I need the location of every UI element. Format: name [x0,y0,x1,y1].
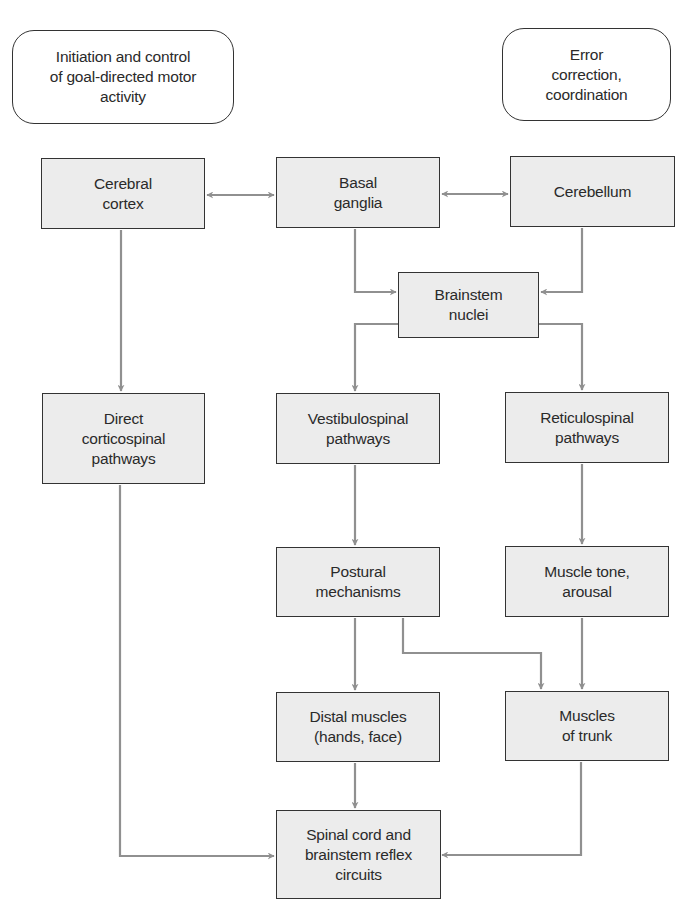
node-label: Direct corticospinal pathways [82,409,166,469]
arrow-postural-trunk [403,618,541,689]
node-spinal-cord: Spinal cord and brainstem reflex circuit… [276,810,441,899]
node-label: Postural mechanisms [316,562,401,602]
annotation-goal-directed: Initiation and control of goal-directed … [12,30,234,124]
arrow-basal-brainstem [355,229,396,292]
node-label: Vestibulospinal pathways [308,409,408,449]
node-muscles-of-trunk: Muscles of trunk [505,691,669,761]
node-label: Muscles of trunk [559,706,614,746]
node-label: Muscle tone, arousal [544,562,629,602]
node-label: Brainstem nuclei [435,285,503,325]
node-label: Spinal cord and brainstem reflex circuit… [305,825,412,885]
node-muscle-tone: Muscle tone, arousal [505,546,669,617]
node-reticulospinal: Reticulospinal pathways [505,392,669,463]
node-label: Cerebral cortex [94,174,152,214]
arrow-cerebellum-brainstem [541,228,582,292]
node-label: Reticulospinal pathways [540,408,634,448]
node-distal-muscles: Distal muscles (hands, face) [276,692,440,762]
node-label: Basal ganglia [334,173,383,213]
arrow-brainstem-reticulo [539,324,582,390]
annotation-error-correction: Error correction, coordination [502,28,671,121]
annotation-text: Error correction, coordination [545,45,627,105]
node-postural-mechanisms: Postural mechanisms [276,547,440,617]
node-direct-corticospinal: Direct corticospinal pathways [42,393,205,484]
arrow-direct-spinal [120,485,274,856]
node-basal-ganglia: Basal ganglia [276,157,440,228]
annotation-text: Initiation and control of goal-directed … [50,47,196,107]
node-cerebral-cortex: Cerebral cortex [41,158,205,229]
node-label: Cerebellum [554,182,631,202]
node-label: Distal muscles (hands, face) [309,707,406,747]
node-cerebellum: Cerebellum [510,156,675,227]
node-vestibulospinal: Vestibulospinal pathways [276,393,440,464]
node-brainstem-nuclei: Brainstem nuclei [398,272,539,338]
arrow-brainstem-vestibulo [355,324,398,391]
arrow-trunk-spinal [442,762,581,855]
